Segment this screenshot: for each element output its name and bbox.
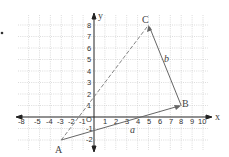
point-a-label: A: [55, 144, 63, 155]
svg-text:5: 5: [147, 117, 151, 126]
svg-text:-3: -3: [57, 117, 64, 126]
svg-text:7: 7: [87, 32, 91, 41]
svg-text:-1: -1: [79, 117, 86, 126]
origin-label: O: [86, 115, 92, 124]
point-c-label: C: [142, 14, 149, 25]
svg-text:3: 3: [87, 78, 91, 87]
y-axis-label: y: [98, 10, 103, 21]
svg-text:-8: -8: [18, 117, 25, 126]
svg-text:4: 4: [87, 67, 91, 76]
coordinate-diagram: x y O -8 -5 -4 -3 -2 -1 1 2 3 4 5 6 7 8 …: [0, 0, 229, 157]
point-b-label: B: [182, 98, 189, 109]
svg-text:7: 7: [169, 117, 173, 126]
x-ticks: -8 -5 -4 -3 -2 -1 1 2 3 4 5 6 7 8 9 10: [18, 117, 206, 126]
svg-text:-5: -5: [34, 117, 41, 126]
svg-text:2: 2: [87, 90, 91, 99]
svg-text:1: 1: [103, 117, 107, 126]
grid: [18, 15, 208, 150]
svg-text:-4: -4: [46, 117, 53, 126]
svg-text:8: 8: [87, 21, 91, 30]
svg-text:10: 10: [198, 117, 206, 126]
svg-text:-2: -2: [86, 135, 93, 144]
svg-text:9: 9: [190, 117, 194, 126]
bullet-dot: [1, 32, 4, 35]
x-axis-label: x: [215, 111, 220, 122]
vector-b-label: b: [164, 53, 169, 64]
svg-text:-2: -2: [68, 117, 75, 126]
svg-text:8: 8: [179, 117, 183, 126]
svg-text:6: 6: [87, 44, 91, 53]
svg-text:5: 5: [87, 55, 91, 64]
vector-b: [147, 25, 181, 106]
svg-text:6: 6: [158, 117, 162, 126]
vector-a-label: a: [130, 124, 135, 135]
y-ticks: 8 7 6 5 4 3 2 1 -1 -2: [86, 21, 93, 144]
